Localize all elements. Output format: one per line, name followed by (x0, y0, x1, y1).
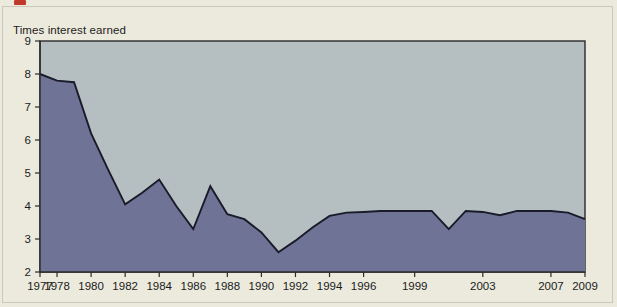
x-axis-tick-label: 2003 (470, 280, 496, 292)
x-axis-tick-label: 1978 (44, 280, 70, 292)
y-axis-tick-label: 8 (25, 68, 31, 80)
y-axis-tick-label: 7 (25, 101, 31, 113)
x-axis-tick-label: 1986 (180, 280, 206, 292)
x-axis-tick-label: 1996 (351, 280, 377, 292)
figure-container: Times interest earned 98765432 197719781… (0, 0, 617, 307)
x-axis-tick-label: 1980 (78, 280, 104, 292)
times-interest-earned-area-chart: 98765432 1977197819801982198419861988199… (0, 0, 617, 307)
x-axis-tick-label: 1990 (249, 280, 275, 292)
x-axis-tick-label: 1988 (215, 280, 241, 292)
x-axis-tick-label: 1992 (283, 280, 309, 292)
y-axis-ticks: 98765432 (25, 35, 40, 278)
x-axis-tick-label: 2009 (572, 280, 598, 292)
y-axis-tick-label: 5 (25, 167, 31, 179)
y-axis-tick-label: 6 (25, 134, 31, 146)
y-axis-tick-label: 4 (25, 200, 32, 212)
x-axis-tick-label: 1994 (317, 280, 343, 292)
y-axis-tick-label: 3 (25, 233, 31, 245)
x-axis-tick-label: 1982 (112, 280, 138, 292)
x-axis-tick-label: 1984 (146, 280, 172, 292)
x-axis-tick-label: 1999 (402, 280, 428, 292)
plot-area-wrapper: 98765432 1977197819801982198419861988199… (0, 0, 617, 307)
x-axis-tick-label: 2007 (538, 280, 564, 292)
y-axis-tick-label: 2 (25, 266, 31, 278)
y-axis-tick-label: 9 (25, 35, 31, 47)
x-axis-ticks: 1977197819801982198419861988199019921994… (27, 272, 598, 292)
